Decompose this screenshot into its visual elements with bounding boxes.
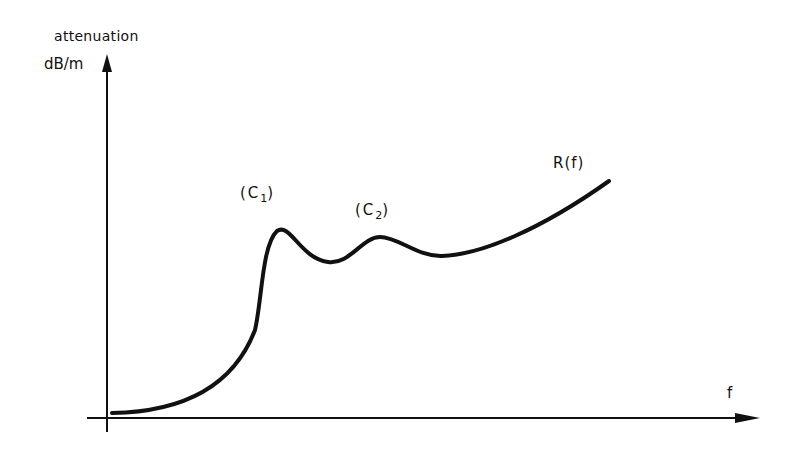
c2-annotation: (C2)	[355, 203, 390, 221]
x-axis-arrow-icon	[735, 413, 760, 423]
c1-annotation: (C1)	[240, 186, 275, 204]
x-axis-label: f	[727, 386, 732, 401]
attenuation-diagram	[0, 0, 791, 449]
y-axis-unit: dB/m	[44, 57, 83, 72]
c1-close-paren: )	[267, 184, 275, 202]
c2-annotation-text: (C	[355, 201, 375, 219]
c2-close-paren: )	[382, 201, 390, 219]
y-axis-arrow-icon	[102, 54, 112, 72]
curve-label: R(f)	[553, 156, 584, 171]
c1-annotation-text: (C	[240, 184, 260, 202]
y-axis-label: attenuation	[54, 29, 139, 43]
